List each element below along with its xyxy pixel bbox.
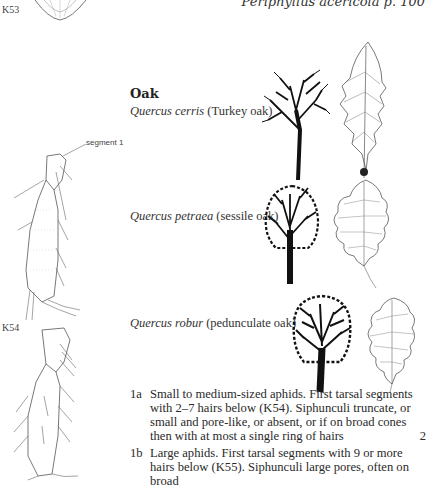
species-latin-name: Quercus robur [130, 316, 203, 330]
running-head: Periphyllus acericola p. 100 [242, 0, 425, 9]
species-quercus-cerris: Quercus cerris (Turkey oak) [130, 104, 272, 119]
couplet-lead-number: 2 [420, 429, 426, 443]
turkey-oak-tree-illustration [260, 70, 330, 180]
sessile-oak-tree-illustration [262, 180, 322, 284]
couplet-text: Small to medium-sized aphids. First tars… [150, 387, 413, 443]
species-latin-name: Quercus petraea [130, 209, 213, 223]
k55-tarsus-illustration [8, 326, 88, 480]
segment-1-callout: segment 1 [86, 138, 123, 147]
species-latin-name: Quercus cerris [130, 104, 204, 118]
couplet-id: 1b [130, 446, 143, 460]
section-title: Oak [130, 86, 159, 101]
pedunculate-oak-leaf-illustration [362, 298, 418, 392]
figure-label-k53: K53 [2, 4, 19, 15]
species-quercus-petraea: Quercus petraea (sessile oak) [130, 209, 278, 224]
species-common-name: (pedunculate oak) [206, 316, 296, 330]
species-quercus-robur: Quercus robur (pedunculate oak) [130, 316, 296, 331]
k54-tarsus-illustration [8, 140, 88, 320]
key-couplet-1a: 1a Small to medium-sized aphids. First t… [130, 387, 426, 443]
pedunculate-oak-tree-illustration [290, 292, 354, 392]
couplet-text: Large aphids. First tarsal segments with… [150, 446, 409, 488]
sessile-oak-leaf-illustration [330, 180, 392, 290]
turkey-oak-leaf-illustration [338, 42, 388, 180]
key-couplet-1b: 1b Large aphids. First tarsal segments w… [130, 446, 426, 488]
couplet-id: 1a [130, 387, 142, 401]
k53-illustration [30, 0, 100, 24]
identification-key: 1a Small to medium-sized aphids. First t… [130, 387, 426, 488]
